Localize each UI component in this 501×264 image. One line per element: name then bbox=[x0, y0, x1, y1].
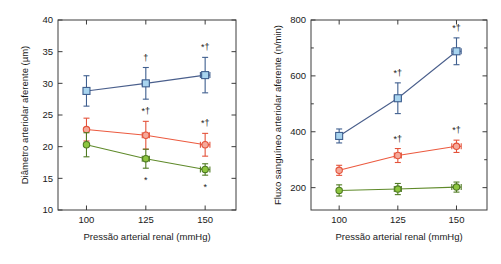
data-point-red: *† bbox=[452, 125, 461, 152]
data-point-blue: *† bbox=[200, 42, 209, 92]
chart-panel-right: 200400600800100125150Pressão arterial re… bbox=[251, 0, 501, 264]
chart-panel-left: 10152025303540100125150Pressão arterial … bbox=[0, 0, 250, 264]
marker-circle bbox=[143, 132, 149, 138]
marker-square bbox=[394, 95, 401, 102]
y-tick-label: 30 bbox=[42, 78, 53, 89]
y-tick-label: 35 bbox=[42, 46, 53, 57]
marker-circle bbox=[395, 152, 401, 158]
marker-circle bbox=[336, 167, 342, 173]
series-red: *†*† bbox=[336, 125, 461, 175]
marker-square bbox=[336, 132, 343, 139]
significance-marker: *† bbox=[142, 106, 151, 116]
x-tick-label: 125 bbox=[138, 214, 154, 225]
chart-svg-left: 10152025303540100125150Pressão arterial … bbox=[0, 0, 250, 264]
marker-square bbox=[202, 72, 209, 79]
data-point-green: * bbox=[142, 149, 149, 185]
significance-marker: *† bbox=[201, 118, 210, 128]
x-axis-title: Pressão arterial renal (mmHg) bbox=[335, 231, 462, 242]
y-tick-label: 15 bbox=[42, 173, 53, 184]
marker-circle bbox=[395, 186, 401, 192]
data-point-green bbox=[452, 182, 461, 192]
series-blue: *†*† bbox=[336, 23, 462, 143]
data-point-green: * bbox=[200, 164, 209, 192]
chart-svg-right: 200400600800100125150Pressão arterial re… bbox=[251, 0, 501, 264]
x-axis-title: Pressão arterial renal (mmHg) bbox=[83, 231, 210, 242]
marker-circle bbox=[202, 142, 208, 148]
y-tick-label: 10 bbox=[42, 204, 53, 215]
marker-circle bbox=[202, 166, 208, 172]
y-tick-label: 400 bbox=[290, 126, 306, 137]
y-tick-label: 20 bbox=[42, 141, 53, 152]
data-point-blue: *† bbox=[394, 68, 403, 114]
plot-frame bbox=[311, 20, 487, 210]
marker-circle bbox=[336, 187, 342, 193]
data-point-blue bbox=[83, 76, 90, 106]
data-point-blue bbox=[336, 129, 343, 143]
significance-marker: *† bbox=[394, 68, 403, 78]
y-tick-label: 800 bbox=[290, 14, 306, 25]
data-point-red: *† bbox=[394, 134, 403, 163]
data-point-blue: *† bbox=[452, 23, 461, 65]
marker-square bbox=[453, 48, 460, 55]
x-tick-label: 100 bbox=[331, 214, 347, 225]
data-point-green bbox=[83, 133, 89, 157]
data-point-green bbox=[394, 183, 401, 194]
x-tick-label: 150 bbox=[449, 214, 465, 225]
x-tick-label: 150 bbox=[197, 214, 213, 225]
series-green bbox=[336, 182, 461, 196]
y-tick-label: 200 bbox=[290, 182, 306, 193]
series-blue: †*† bbox=[83, 42, 210, 106]
marker-circle bbox=[453, 143, 459, 149]
data-point-green bbox=[336, 185, 342, 196]
marker-square bbox=[83, 87, 90, 94]
significance-marker: *† bbox=[394, 134, 403, 144]
significance-marker: *† bbox=[201, 42, 210, 52]
y-axis-title: Diâmetro arteriolar aferente (µm) bbox=[19, 46, 30, 185]
marker-circle bbox=[453, 184, 459, 190]
y-axis-title: Fluxo sanguíneo arteriolar aferente (n/m… bbox=[272, 25, 283, 205]
y-tick-label: 40 bbox=[42, 14, 53, 25]
x-tick-label: 100 bbox=[79, 214, 95, 225]
marker-circle bbox=[83, 142, 89, 148]
marker-square bbox=[142, 80, 149, 87]
significance-marker: * bbox=[144, 175, 148, 185]
figure-container: 10152025303540100125150Pressão arterial … bbox=[0, 0, 501, 264]
data-point-red: *† bbox=[200, 118, 209, 156]
significance-marker: * bbox=[203, 182, 207, 192]
data-point-blue: † bbox=[142, 53, 149, 100]
y-tick-label: 25 bbox=[42, 109, 53, 120]
significance-marker: *† bbox=[452, 23, 461, 33]
data-point-red bbox=[336, 165, 342, 175]
marker-circle bbox=[83, 126, 89, 132]
data-point-red: *† bbox=[142, 106, 151, 149]
significance-marker: *† bbox=[452, 125, 461, 135]
marker-circle bbox=[143, 156, 149, 162]
y-tick-label: 600 bbox=[290, 70, 306, 81]
significance-marker: † bbox=[143, 53, 148, 63]
series-green: ** bbox=[83, 133, 210, 192]
x-tick-label: 125 bbox=[390, 214, 406, 225]
